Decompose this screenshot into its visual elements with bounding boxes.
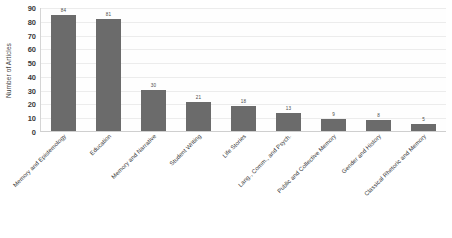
bar bbox=[276, 113, 301, 131]
x-axis-tick-label-text: Life Stories bbox=[221, 133, 247, 159]
bar bbox=[96, 19, 121, 131]
y-axis-tick-60: 60 bbox=[28, 45, 36, 54]
bar bbox=[51, 15, 76, 131]
bar-slot: 13 bbox=[266, 8, 311, 131]
x-axis-tick-label-text: Memory and Narrative bbox=[110, 133, 157, 180]
y-axis-title: Number of Articles bbox=[0, 0, 16, 140]
y-axis-tick-90: 90 bbox=[28, 4, 36, 13]
bar-value-label: 30 bbox=[151, 84, 156, 89]
x-axis-tick-labels: Memory and EpistemologyEducationMemory a… bbox=[40, 133, 446, 233]
bar-slot: 9 bbox=[311, 8, 356, 131]
bar-chart: Number of Articles 0102030405060708090 8… bbox=[0, 0, 452, 238]
bar-slot: 8 bbox=[356, 8, 401, 131]
bar-value-label: 81 bbox=[106, 13, 111, 18]
y-axis-tick-80: 80 bbox=[28, 17, 36, 26]
bar-slot: 18 bbox=[221, 8, 266, 131]
y-axis-tick-10: 10 bbox=[28, 114, 36, 123]
bar bbox=[186, 102, 211, 131]
bar bbox=[321, 119, 346, 131]
bar-slot: 30 bbox=[131, 8, 176, 131]
x-axis-tick-label-text: Student Writing bbox=[168, 133, 202, 167]
bar-value-label: 5 bbox=[422, 118, 425, 123]
bar-value-label: 84 bbox=[61, 9, 66, 14]
bar-value-label: 18 bbox=[241, 100, 246, 105]
y-axis-tick-labels: 0102030405060708090 bbox=[16, 8, 38, 132]
bar bbox=[141, 90, 166, 131]
bar-slot: 5 bbox=[401, 8, 446, 131]
bar-value-label: 9 bbox=[332, 113, 335, 118]
bar bbox=[231, 106, 256, 131]
bar bbox=[366, 120, 391, 131]
bar-slot: 81 bbox=[86, 8, 131, 131]
y-axis-tick-0: 0 bbox=[32, 128, 36, 137]
x-axis-tick-label-text: Gender and History bbox=[341, 133, 383, 175]
bar-value-label: 8 bbox=[377, 114, 380, 119]
y-axis-title-text: Number of Articles bbox=[5, 43, 12, 98]
bar bbox=[411, 124, 436, 131]
y-axis-tick-70: 70 bbox=[28, 31, 36, 40]
bars-container: 848130211813985 bbox=[41, 8, 446, 131]
y-axis-tick-30: 30 bbox=[28, 86, 36, 95]
y-axis-tick-50: 50 bbox=[28, 59, 36, 68]
x-axis-tick-label-text: Education bbox=[88, 133, 111, 156]
y-axis-tick-40: 40 bbox=[28, 72, 36, 81]
x-axis-tick-label-text: Lang., Comm., and Psych. bbox=[237, 133, 292, 188]
bar-value-label: 21 bbox=[196, 96, 201, 101]
x-axis-tick-label-text: Memory and Epistemology bbox=[12, 133, 67, 188]
bar-value-label: 13 bbox=[286, 107, 291, 112]
bar-slot: 21 bbox=[176, 8, 221, 131]
y-axis-tick-20: 20 bbox=[28, 100, 36, 109]
plot-area: 848130211813985 bbox=[40, 8, 446, 132]
bar-slot: 84 bbox=[41, 8, 86, 131]
